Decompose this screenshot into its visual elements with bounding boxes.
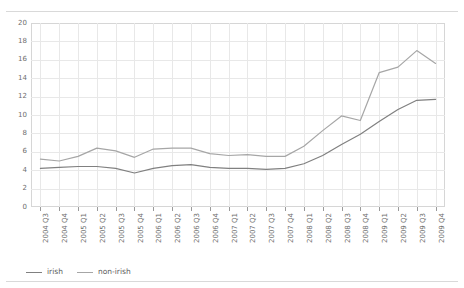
x-axis-tick-label: 2007 Q3 <box>269 213 276 243</box>
x-axis-tick-label: 2004 Q4 <box>62 213 69 243</box>
x-axis-tick-mark <box>153 207 154 211</box>
y-axis-tick-label: 10 <box>3 112 27 119</box>
x-axis: 2004 Q32004 Q42005 Q12005 Q22005 Q32005 … <box>31 207 445 267</box>
x-axis-tick-mark <box>172 207 173 211</box>
series-line-non-irish <box>40 51 435 161</box>
legend-item-non-irish[interactable]: non-irish <box>77 268 131 276</box>
chart-figure: 20181614121086420 2004 Q32004 Q42005 Q12… <box>0 0 464 288</box>
x-axis-tick-label: 2009 Q3 <box>420 213 427 243</box>
x-axis-tick-label: 2005 Q3 <box>119 213 126 243</box>
x-axis-tick-label: 2004 Q3 <box>43 213 50 243</box>
top-divider <box>6 11 458 12</box>
x-axis-tick-label: 2005 Q4 <box>138 213 145 243</box>
x-axis-tick-label: 2005 Q2 <box>100 213 107 243</box>
plot-area <box>31 23 445 207</box>
series-line-irish <box>40 99 435 173</box>
x-axis-tick-mark <box>379 207 380 211</box>
x-axis-tick-mark <box>59 207 60 211</box>
legend-swatch-icon <box>26 272 42 273</box>
x-axis-tick-label: 2009 Q2 <box>401 213 408 243</box>
x-axis-tick-mark <box>360 207 361 211</box>
x-axis-tick-mark <box>342 207 343 211</box>
x-axis-tick-mark <box>116 207 117 211</box>
y-axis-tick-label: 8 <box>3 130 27 137</box>
x-axis-tick-mark <box>134 207 135 211</box>
x-axis-tick-mark <box>247 207 248 211</box>
y-axis-tick-label: 14 <box>3 75 27 82</box>
x-axis-tick-label: 2006 Q2 <box>175 213 182 243</box>
legend-label: non-irish <box>98 268 131 276</box>
x-axis-tick-mark <box>97 207 98 211</box>
x-axis-tick-mark <box>323 207 324 211</box>
x-axis-tick-label: 2007 Q2 <box>250 213 257 243</box>
x-axis-tick-mark <box>78 207 79 211</box>
x-axis-tick-mark <box>285 207 286 211</box>
x-axis-tick-label: 2006 Q3 <box>194 213 201 243</box>
y-axis-tick-label: 6 <box>3 148 27 155</box>
series-layer <box>31 23 445 207</box>
y-axis: 20181614121086420 <box>0 0 27 230</box>
x-axis-tick-label: 2008 Q4 <box>363 213 370 243</box>
legend-label: irish <box>47 268 63 276</box>
x-axis-tick-label: 2009 Q4 <box>439 213 446 243</box>
y-axis-tick-label: 4 <box>3 167 27 174</box>
x-axis-tick-label: 2008 Q2 <box>326 213 333 243</box>
x-axis-tick-label: 2006 Q4 <box>213 213 220 243</box>
x-axis-tick-label: 2006 Q1 <box>156 213 163 243</box>
y-axis-tick-label: 20 <box>3 20 27 27</box>
x-axis-tick-label: 2005 Q1 <box>81 213 88 243</box>
bottom-divider <box>6 281 458 282</box>
y-axis-tick-label: 12 <box>3 93 27 100</box>
y-axis-tick-label: 18 <box>3 38 27 45</box>
x-axis-tick-label: 2008 Q1 <box>307 213 314 243</box>
x-axis-tick-mark <box>191 207 192 211</box>
y-axis-tick-label: 0 <box>3 204 27 211</box>
x-axis-tick-mark <box>436 207 437 211</box>
legend-swatch-icon <box>77 272 93 273</box>
x-axis-tick-mark <box>210 207 211 211</box>
x-axis-tick-mark <box>266 207 267 211</box>
x-axis-tick-mark <box>398 207 399 211</box>
x-axis-tick-mark <box>229 207 230 211</box>
y-axis-tick-label: 2 <box>3 185 27 192</box>
x-axis-tick-label: 2007 Q4 <box>288 213 295 243</box>
x-axis-tick-mark <box>40 207 41 211</box>
x-axis-tick-label: 2008 Q3 <box>345 213 352 243</box>
x-axis-tick-mark <box>417 207 418 211</box>
x-axis-tick-label: 2007 Q1 <box>232 213 239 243</box>
x-axis-tick-label: 2009 Q1 <box>382 213 389 243</box>
clipped-caption <box>28 0 448 6</box>
y-axis-tick-label: 16 <box>3 56 27 63</box>
chart-legend: irishnon-irish <box>26 266 131 278</box>
legend-item-irish[interactable]: irish <box>26 268 63 276</box>
x-axis-tick-mark <box>304 207 305 211</box>
